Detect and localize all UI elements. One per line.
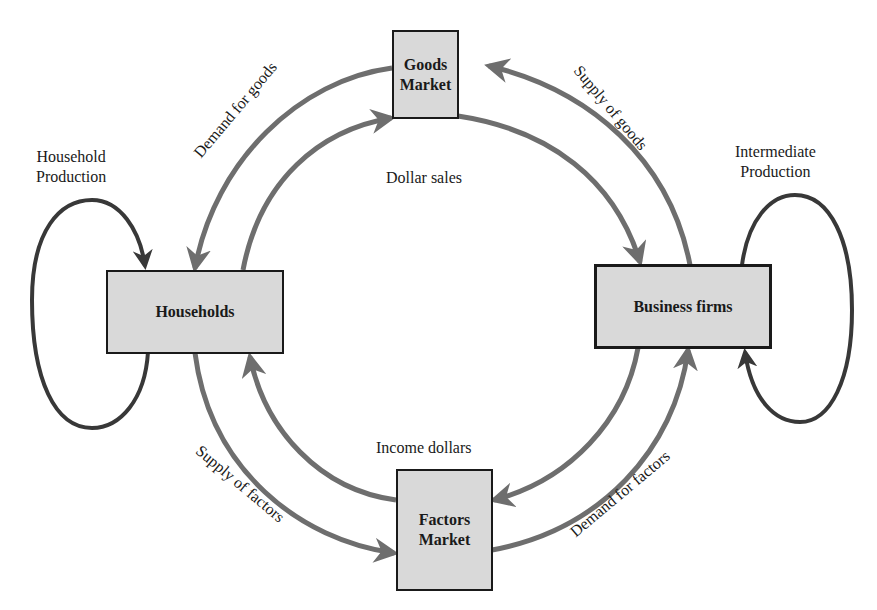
household-production-line2: Production <box>36 167 106 187</box>
goods-market-label-line2: Market <box>400 75 452 95</box>
income-dollars-arrow <box>250 357 396 500</box>
firms-to-factors-market-arrow <box>494 348 638 500</box>
households-box: Households <box>106 270 284 354</box>
business-firms-label: Business firms <box>633 297 732 317</box>
intermediate-production-line2: Production <box>735 162 816 182</box>
dollar-sales-label: Dollar sales <box>386 168 462 188</box>
household-production-line1: Household <box>36 147 106 167</box>
factors-market-box: Factors Market <box>396 469 493 591</box>
income-dollars-label: Income dollars <box>376 438 472 458</box>
factors-market-label-line1: Factors <box>419 510 471 530</box>
dollar-sales-arrow <box>458 116 640 262</box>
circular-flow-diagram: Goods Market Households Business firms F… <box>0 0 877 610</box>
household-production-label: Household Production <box>36 147 106 187</box>
factors-market-label-line2: Market <box>419 530 471 550</box>
goods-market-label-line1: Goods <box>400 55 452 75</box>
goods-market-box: Goods Market <box>392 30 459 119</box>
supply-of-factors-arrow <box>195 353 394 553</box>
household-to-goods-market-arrow <box>243 118 391 270</box>
business-firms-box: Business firms <box>594 264 772 349</box>
households-label: Households <box>155 302 234 322</box>
intermediate-production-label: Intermediate Production <box>735 142 816 182</box>
intermediate-production-line1: Intermediate <box>735 142 816 162</box>
